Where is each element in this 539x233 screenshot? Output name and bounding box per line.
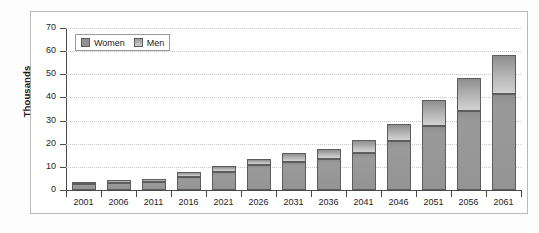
x-axis-tick-label: 2001 [66,197,101,207]
bar-group[interactable] [317,149,341,190]
bar-segment-women[interactable] [177,177,201,190]
bar-segment-men[interactable] [72,182,96,185]
y-axis-tick-label: 50 [28,69,56,78]
bar-segment-women[interactable] [317,159,341,190]
x-axis-tick [416,190,417,197]
legend-swatch-men-icon [134,38,143,47]
bar-group[interactable] [352,140,376,190]
y-axis-tick-label: 60 [28,46,56,55]
x-axis-tick-label: 2021 [206,197,241,207]
x-axis-tick [136,190,137,197]
bar-segment-men[interactable] [317,149,341,159]
y-axis-tick-label-wrap: 40 [22,92,56,101]
x-axis-tick [311,190,312,197]
bar-segment-women[interactable] [247,165,271,190]
bar-group[interactable] [72,182,96,190]
legend-swatch-women-icon [81,38,90,47]
bar-segment-women[interactable] [107,183,131,190]
x-axis-tick-label: 2016 [171,197,206,207]
legend-label: Men [147,38,165,48]
y-axis-tick-label: 30 [28,116,56,125]
x-axis-tick [66,190,67,197]
bar-group[interactable] [387,124,411,190]
legend-item[interactable]: Men [134,38,165,48]
y-axis-tick-label-wrap: 60 [22,46,56,55]
plot-area [66,28,521,190]
bar-segment-men[interactable] [247,159,271,166]
x-axis-tick-label: 2031 [276,197,311,207]
bar-segment-women[interactable] [457,111,481,190]
bar-segment-men[interactable] [422,100,446,126]
bar-group[interactable] [247,159,271,190]
gridline [66,28,521,29]
x-axis-tick [101,190,102,197]
y-axis-tick-label: 40 [28,92,56,101]
x-axis-tick [486,190,487,197]
x-axis-ticks [66,190,521,197]
gridline [66,97,521,98]
gridline [66,144,521,145]
y-axis-tick-label: 70 [28,23,56,32]
bar-group[interactable] [422,100,446,190]
bar-group[interactable] [457,78,481,190]
x-axis-tick-label: 2056 [451,197,486,207]
bar-segment-men[interactable] [212,166,236,172]
x-axis-tick [206,190,207,197]
y-axis-tick-label-wrap: 30 [22,116,56,125]
chart-figure: Thousands 010203040506070 20012006201120… [0,0,539,233]
bar-segment-women[interactable] [212,172,236,191]
x-axis-tick [241,190,242,197]
gridline [66,51,521,52]
legend-item[interactable]: Women [81,38,125,48]
bar-segment-women[interactable] [352,153,376,190]
gridline [66,74,521,75]
x-axis-tick-label: 2051 [416,197,451,207]
x-axis-tick-label: 2041 [346,197,381,207]
bar-segment-men[interactable] [142,179,166,182]
bar-segment-women[interactable] [387,141,411,190]
x-axis-tick-label: 2011 [136,197,171,207]
chart-legend: WomenMen [75,34,170,51]
bar-group[interactable] [177,172,201,190]
bar-segment-men[interactable] [457,78,481,110]
y-axis-tick-label-wrap: 0 [22,185,56,194]
x-axis-tick [346,190,347,197]
bar-segment-women[interactable] [142,182,166,190]
bar-segment-men[interactable] [282,153,306,161]
x-axis-tick [381,190,382,197]
y-axis-tick-label: 10 [28,162,56,171]
y-axis-tick-label-wrap: 10 [22,162,56,171]
y-axis-tick-label: 0 [28,185,56,194]
x-axis-tick [276,190,277,197]
bar-group[interactable] [107,180,131,190]
x-axis-tick-label: 2036 [311,197,346,207]
x-axis-tick [451,190,452,197]
bar-segment-men[interactable] [107,180,131,183]
x-axis-tick-label: 2026 [241,197,276,207]
x-axis-tick [521,190,522,197]
bar-segment-men[interactable] [352,140,376,153]
bar-segment-men[interactable] [492,55,516,94]
bar-group[interactable] [492,55,516,190]
y-axis-tick-label: 20 [28,139,56,148]
bar-group[interactable] [142,179,166,190]
x-axis-tick-label: 2006 [101,197,136,207]
x-axis-tick [171,190,172,197]
x-axis-tick-label: 2046 [381,197,416,207]
x-axis-tick-label: 2061 [486,197,521,207]
bar-segment-women[interactable] [492,94,516,190]
bar-segment-men[interactable] [387,124,411,141]
bar-segment-women[interactable] [282,162,306,190]
bar-group[interactable] [212,166,236,190]
gridline [66,121,521,122]
y-axis-tick-label-wrap: 50 [22,69,56,78]
y-axis-tick-label-wrap: 20 [22,139,56,148]
legend-label: Women [94,38,125,48]
bar-segment-men[interactable] [177,172,201,177]
bar-segment-women[interactable] [422,126,446,190]
y-axis-tick-label-wrap: 70 [22,23,56,32]
bar-group[interactable] [282,153,306,190]
